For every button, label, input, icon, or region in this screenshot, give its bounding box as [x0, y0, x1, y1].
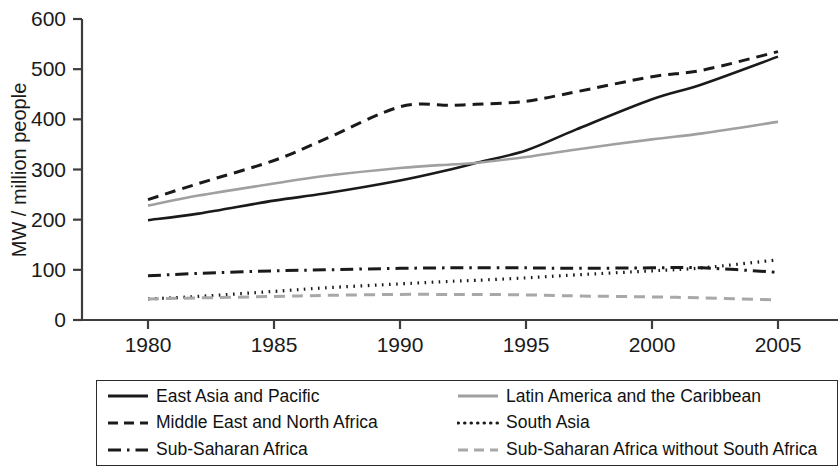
legend-label: East Asia and Pacific	[156, 388, 319, 406]
y-axis: 0100200300400500600 MW / million people	[8, 7, 82, 331]
x-tick-marks	[148, 320, 778, 329]
y-axis-label: MW / million people	[8, 83, 30, 258]
legend-item: Middle East and North Africa	[107, 414, 457, 432]
legend-item: East Asia and Pacific	[107, 388, 457, 406]
y-tick-label: 500	[31, 57, 66, 80]
legend-label: Middle East and North Africa	[156, 414, 378, 432]
line-chart: 0100200300400500600 MW / million people …	[0, 0, 840, 380]
y-tick-label: 200	[31, 208, 66, 231]
dashed-gray-line-icon	[457, 444, 499, 456]
series-line	[148, 122, 778, 206]
y-tick-label: 100	[31, 258, 66, 281]
series-line	[148, 52, 778, 200]
y-tick-label: 600	[31, 7, 66, 30]
x-tick-label: 1990	[377, 333, 424, 356]
x-tick-label: 1980	[125, 333, 172, 356]
x-tick-labels: 198019851990199520002005	[125, 333, 802, 356]
series-lines	[148, 52, 778, 300]
x-tick-label: 2005	[755, 333, 802, 356]
solid-black-line-icon	[107, 390, 149, 402]
x-tick-label: 1985	[251, 333, 298, 356]
legend-label: Latin America and the Caribbean	[506, 388, 761, 406]
chart-legend: East Asia and PacificLatin America and t…	[96, 380, 838, 466]
legend-label: South Asia	[506, 414, 590, 432]
y-tick-label: 300	[31, 158, 66, 181]
y-tick-marks	[73, 19, 82, 320]
x-tick-label: 2000	[629, 333, 676, 356]
x-axis: 198019851990199520002005	[82, 320, 838, 356]
legend-item: Latin America and the Caribbean	[457, 388, 831, 406]
series-line	[148, 267, 778, 275]
legend-label: Sub-Saharan Africa without South Africa	[506, 441, 817, 459]
legend-label: Sub-Saharan Africa	[156, 441, 308, 459]
legend-item: Sub-Saharan Africa without South Africa	[457, 441, 831, 459]
legend-item: Sub-Saharan Africa	[107, 441, 457, 459]
dashdot-black-line-icon	[107, 444, 149, 456]
series-line	[148, 294, 778, 300]
chart-figure: 0100200300400500600 MW / million people …	[0, 0, 840, 468]
x-tick-label: 1995	[503, 333, 550, 356]
y-tick-label: 0	[54, 308, 66, 331]
series-line	[148, 57, 778, 221]
y-tick-label: 400	[31, 107, 66, 130]
solid-gray-line-icon	[457, 390, 499, 402]
dotted-black-line-icon	[457, 417, 499, 429]
legend-item: South Asia	[457, 414, 831, 432]
y-tick-labels: 0100200300400500600	[31, 7, 66, 331]
dashed-black-line-icon	[107, 417, 149, 429]
